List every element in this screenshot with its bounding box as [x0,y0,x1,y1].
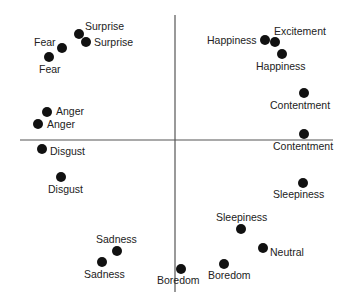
point-label-excitement: Excitement [274,25,326,37]
data-point-sleepiness [298,178,308,188]
data-point-neutral [258,243,268,253]
data-point-disgust [37,144,47,154]
data-point-fear [44,52,54,62]
data-point-contentment [299,88,309,98]
point-label-surprise: Surprise [85,20,124,32]
data-point-sadness [112,246,122,256]
point-label-contentment: Contentment [270,99,330,111]
point-label-surprise: Surprise [94,36,133,48]
point-label-boredom: Boredom [208,269,251,281]
point-label-sleepiness: Sleepiness [273,188,324,200]
data-point-boredom [176,264,186,274]
point-label-happiness: Happiness [207,34,257,46]
point-label-boredom: Boredom [157,274,200,286]
data-point-anger [33,119,43,129]
point-label-contentment: Contentment [273,140,333,152]
point-label-disgust: Disgust [50,145,85,157]
data-point-boredom [219,259,229,269]
data-point-sleepiness [236,224,246,234]
data-point-sadness [97,257,107,267]
data-point-contentment [299,129,309,139]
data-point-surprise [81,37,91,47]
point-label-anger: Anger [56,105,85,117]
point-label-anger: Anger [47,118,76,130]
point-label-sadness: Sadness [84,268,125,280]
data-point-disgust [56,172,66,182]
data-point-happiness [260,35,270,45]
point-label-neutral: Neutral [270,246,304,258]
point-label-happiness: Happiness [256,60,306,72]
point-label-sadness: Sadness [96,233,137,245]
scatter-plot: SurpriseSurpriseFearFearHappinessExcitem… [0,0,348,302]
point-label-disgust: Disgust [48,183,83,195]
point-label-sleepiness: Sleepiness [216,211,267,223]
data-point-fear [57,43,67,53]
point-labels: SurpriseSurpriseFearFearHappinessExcitem… [34,20,333,286]
data-point-surprise [74,29,84,39]
data-point-happiness [277,49,287,59]
point-label-fear: Fear [34,36,56,48]
data-point-anger [42,107,52,117]
data-point-excitement [270,37,280,47]
point-label-fear: Fear [39,63,61,75]
